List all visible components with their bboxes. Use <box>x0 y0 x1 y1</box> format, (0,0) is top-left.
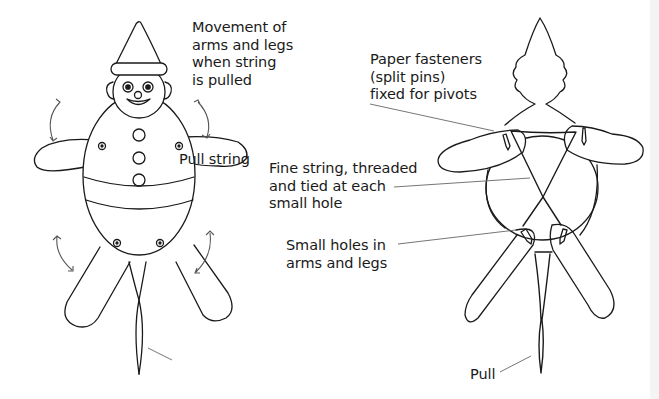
label-small-holes: Small holes in arms and legs <box>286 237 387 272</box>
pull-string-right <box>139 262 146 374</box>
leader-pull-string <box>148 348 172 360</box>
pull-string-left <box>129 262 139 374</box>
leader-small-holes <box>398 230 516 244</box>
label-movement: Movement of arms and legs when string is… <box>192 19 293 89</box>
double-arrow-icon <box>195 231 214 273</box>
front-left-leg <box>65 247 130 327</box>
front-right-leg <box>176 245 232 321</box>
fine-string <box>511 131 576 373</box>
leader-fasteners <box>370 104 494 131</box>
double-arrow-icon <box>194 100 210 138</box>
label-pull: Pull <box>470 366 495 384</box>
back-head-silhouette <box>505 18 575 125</box>
hat-brim <box>111 63 167 75</box>
front-body <box>83 95 195 255</box>
diagram: Movement of arms and legs when string is… <box>0 0 659 399</box>
back-left-arm <box>438 130 526 172</box>
hat-cone <box>116 22 161 64</box>
label-pull-string: Pull string <box>179 151 250 169</box>
leader-pull <box>500 356 531 372</box>
label-fasteners: Paper fasteners (split pins) fixed for p… <box>370 51 482 104</box>
double-arrow-icon <box>53 236 73 271</box>
back-left-leg <box>465 229 535 322</box>
page-edge <box>650 0 659 399</box>
double-arrow-icon <box>50 99 60 141</box>
label-fine-string: Fine string, threaded and tied at each s… <box>269 160 417 213</box>
